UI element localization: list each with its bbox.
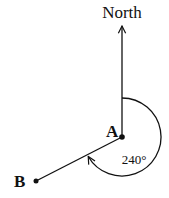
point-b (34, 179, 39, 184)
point-a-label: A (106, 122, 119, 141)
point-b-label: B (14, 172, 25, 191)
north-label: North (102, 3, 142, 22)
bearing-label: 240° (122, 152, 147, 167)
point-a (119, 134, 125, 140)
bearing-diagram: North A B 240° (0, 0, 169, 198)
